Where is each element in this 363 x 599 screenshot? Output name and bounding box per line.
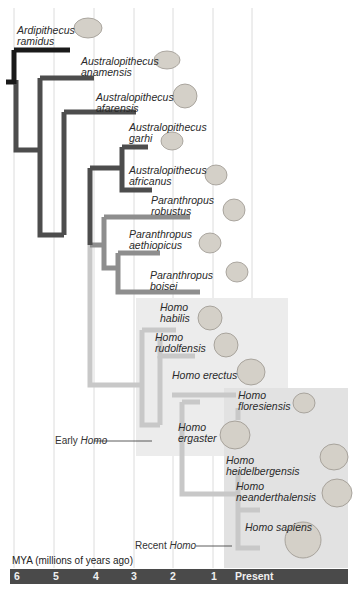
- tick-3: 3: [131, 570, 137, 582]
- species-label-paranthropus-boisei: Paranthropusboisei: [150, 270, 213, 292]
- species-label-homo-neanderthalensis: Homoneanderthalensis: [236, 481, 316, 503]
- axis-title: MYA (millions of years ago): [12, 555, 133, 566]
- tick-5: 5: [53, 570, 59, 582]
- species-label-homo-heidelbergensis: Homoheidelbergensis: [226, 455, 300, 477]
- skull-icon: [198, 306, 222, 330]
- species-label-australopithecus-afarensis: Australopithecusafarensis: [96, 92, 174, 114]
- skull-icon: [223, 199, 245, 221]
- skull-icon: [226, 262, 248, 282]
- species-label-homo-erectus: Homo erectus: [172, 370, 237, 381]
- skull-icon: [173, 84, 197, 108]
- tick-1: 1: [211, 570, 217, 582]
- time-axis-bar: [10, 569, 348, 584]
- early-homo-label: Early Homo: [55, 435, 107, 446]
- skull-icon: [293, 393, 315, 413]
- species-label-ardipithecus-ramidus: Ardipithecusramidus: [17, 25, 75, 47]
- skull-icon: [74, 18, 102, 38]
- tick-2: 2: [170, 570, 176, 582]
- skull-icon: [214, 333, 238, 357]
- tick-present: Present: [235, 570, 274, 582]
- species-label-homo-ergaster: Homoergaster: [178, 422, 217, 444]
- species-label-australopithecus-garhi: Australopithecusgarhi: [129, 122, 207, 144]
- species-label-homo-rudolfensis: Homorudolfensis: [155, 332, 206, 354]
- tick-4: 4: [93, 570, 99, 582]
- skull-icon: [237, 359, 265, 385]
- tick-6: 6: [14, 570, 20, 582]
- recent-homo-label: Recent Homo: [135, 540, 196, 551]
- phylogeny-diagram: Ardipithecusramidus Australopithecusanam…: [0, 0, 363, 599]
- skull-icon: [199, 233, 221, 253]
- species-label-australopithecus-anamensis: Australopithecusanamensis: [81, 56, 159, 78]
- species-label-homo-sapiens: Homo sapiens: [245, 522, 312, 533]
- species-label-homo-habilis: Homohabilis: [160, 302, 190, 324]
- species-label-homo-floresiensis: Homofloresiensis: [238, 390, 291, 412]
- species-label-paranthropus-robustus: Paranthropusrobustus: [151, 195, 214, 217]
- species-label-paranthropus-aethiopicus: Paranthropusaethiopicus: [129, 229, 192, 251]
- tree-graphic: [0, 0, 363, 599]
- skull-icon: [205, 165, 227, 185]
- skull-icon: [320, 444, 348, 470]
- species-label-australopithecus-africanus: Australopithecusafricanus: [129, 165, 207, 187]
- skull-icon: [220, 421, 250, 449]
- skull-icon: [322, 479, 352, 507]
